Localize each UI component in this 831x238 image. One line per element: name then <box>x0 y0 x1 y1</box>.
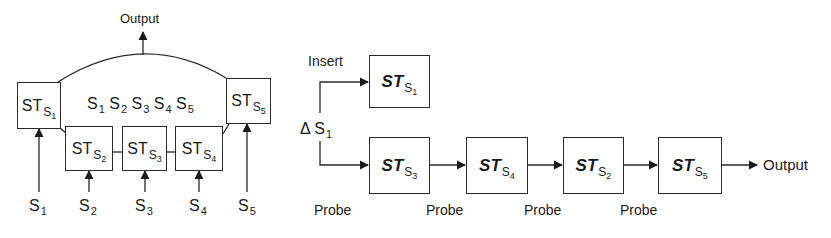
probe-label-4: Probe <box>620 203 657 217</box>
box-st-s3: STS3 <box>122 126 167 171</box>
input-s4: S4 <box>189 198 207 214</box>
box-chain-st-s4: STS4 <box>466 137 528 194</box>
delta-s1-label: Δ S1 <box>300 121 332 137</box>
center-sequence: S1 S2 S3 S4 S5 <box>87 96 194 112</box>
probe-label-3: Probe <box>524 203 561 217</box>
insert-arrow <box>320 82 368 113</box>
output-label-right: Output <box>763 157 808 172</box>
box-st-s4: STS4 <box>175 126 223 171</box>
input-s5: S5 <box>238 198 256 214</box>
probe-label-1: Probe <box>314 203 351 217</box>
output-label: Output <box>120 12 159 25</box>
input-s1: S1 <box>29 198 47 214</box>
probe-label-2: Probe <box>426 203 463 217</box>
box-chain-st-s5: STS5 <box>658 137 722 194</box>
insert-label: Insert <box>308 54 343 68</box>
box-st-s1: STS1 <box>17 82 61 129</box>
box-insert-st-s1: STS1 <box>369 55 430 108</box>
input-s3: S3 <box>135 198 153 214</box>
probe-start-arrow <box>320 141 368 165</box>
diagram-lines <box>0 0 831 238</box>
box-chain-st-s3: STS3 <box>369 137 430 194</box>
input-s2: S2 <box>79 198 97 214</box>
join-arc <box>58 54 226 82</box>
box-st-s5: STS5 <box>226 78 271 124</box>
box-chain-st-s2: STS2 <box>563 137 624 194</box>
box-st-s2: STS2 <box>65 126 113 171</box>
